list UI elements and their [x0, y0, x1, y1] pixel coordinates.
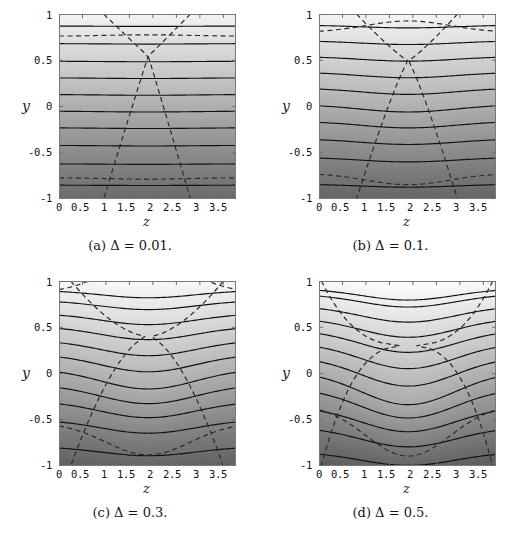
panel-b-xtick-1: 0.5 [322, 201, 358, 213]
panel-b-ytick-4: -1 [274, 192, 312, 204]
figure-grid: y 1 0.5 0 -0.5 -1 0 0.5 1 1.5 2 2.5 3 3.… [0, 0, 521, 534]
panel-b-xtick-3: 1.5 [368, 201, 404, 213]
panel-c-plot [59, 281, 236, 466]
panel-d-x-axis-label: z [403, 481, 410, 496]
panel-d-caption: (d) Δ = 0.5. [260, 505, 521, 520]
panel-a-caption: (a) Δ = 0.01. [0, 238, 260, 253]
panel-c-xtick-7: 3.5 [200, 468, 236, 480]
panel-d-ytick-1: 0.5 [274, 321, 312, 333]
panel-a-xtick-7: 3.5 [200, 201, 236, 213]
panel-b-x-axis-label: z [403, 214, 410, 229]
panel-b-ytick-0: 1 [274, 9, 312, 21]
panel-a: y 1 0.5 0 -0.5 -1 0 0.5 1 1.5 2 2.5 3 3.… [0, 0, 260, 267]
panel-d-xtick-5: 2.5 [414, 468, 450, 480]
panel-d-ytick-0: 1 [274, 276, 312, 288]
panel-d-xtick-7: 3.5 [460, 468, 496, 480]
panel-d-ytick-2: 0 [274, 367, 312, 379]
contour-line-solid [59, 78, 236, 79]
panel-b-plot [319, 14, 496, 199]
panel-a-ytick-2: 0 [14, 100, 52, 112]
panel-d-xtick-1: 0.5 [322, 468, 358, 480]
panel-d-ytick-3: -0.5 [274, 413, 312, 425]
panel-a-ytick-4: -1 [14, 192, 52, 204]
panel-c: y 1 0.5 0 -0.5 -1 0 0.5 1 1.5 2 2.5 3 3.… [0, 267, 260, 534]
panel-d-plot [319, 281, 496, 466]
panel-b-ytick-3: -0.5 [274, 146, 312, 158]
panel-d: y 1 0.5 0 -0.5 -1 0 0.5 1 1.5 2 2.5 3 3.… [260, 267, 521, 534]
panel-c-ytick-3: -0.5 [14, 413, 52, 425]
panel-c-caption: (c) Δ = 0.3. [0, 505, 260, 520]
contour-line-solid [59, 145, 236, 146]
panel-a-ytick-3: -0.5 [14, 146, 52, 158]
panel-a-xtick-1: 0.5 [62, 201, 98, 213]
panel-c-xtick-5: 2.5 [154, 468, 190, 480]
panel-d-ytick-4: -1 [274, 459, 312, 471]
panel-c-x-axis-label: z [143, 481, 150, 496]
panel-c-ytick-4: -1 [14, 459, 52, 471]
panel-c-xtick-1: 0.5 [62, 468, 98, 480]
panel-c-xtick-3: 1.5 [108, 468, 144, 480]
panel-d-xtick-3: 1.5 [368, 468, 404, 480]
panel-b-xtick-5: 2.5 [414, 201, 450, 213]
panel-b-ytick-1: 0.5 [274, 54, 312, 66]
panel-b-caption: (b) Δ = 0.1. [260, 238, 521, 253]
panel-c-ytick-0: 1 [14, 276, 52, 288]
panel-b-ytick-2: 0 [274, 100, 312, 112]
panel-c-ytick-2: 0 [14, 367, 52, 379]
panel-a-ytick-0: 1 [14, 9, 52, 21]
panel-a-ytick-1: 0.5 [14, 54, 52, 66]
panel-b: y 1 0.5 0 -0.5 -1 0 0.5 1 1.5 2 2.5 3 3.… [260, 0, 521, 267]
panel-a-xtick-5: 2.5 [154, 201, 190, 213]
panel-c-ytick-1: 0.5 [14, 321, 52, 333]
panel-a-plot [59, 14, 236, 199]
panel-a-xtick-3: 1.5 [108, 201, 144, 213]
contour-line-solid [59, 128, 236, 129]
panel-a-x-axis-label: z [143, 214, 150, 229]
panel-b-xtick-7: 3.5 [460, 201, 496, 213]
